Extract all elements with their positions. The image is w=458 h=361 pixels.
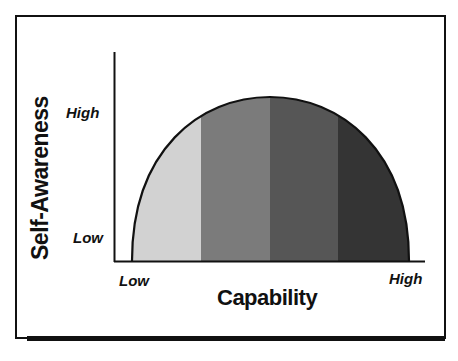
y-tick-high: High (66, 104, 99, 121)
x-tick-low: Low (119, 272, 149, 289)
x-axis-title: Capability (217, 285, 317, 311)
band-2 (201, 90, 270, 262)
y-tick-low: Low (73, 229, 103, 246)
x-tick-high: High (389, 270, 422, 287)
band-4 (338, 90, 413, 262)
band-1 (128, 90, 201, 262)
y-axis-title: Self-Awareness (27, 96, 54, 260)
band-3 (270, 90, 338, 262)
arc-bands (128, 90, 413, 262)
